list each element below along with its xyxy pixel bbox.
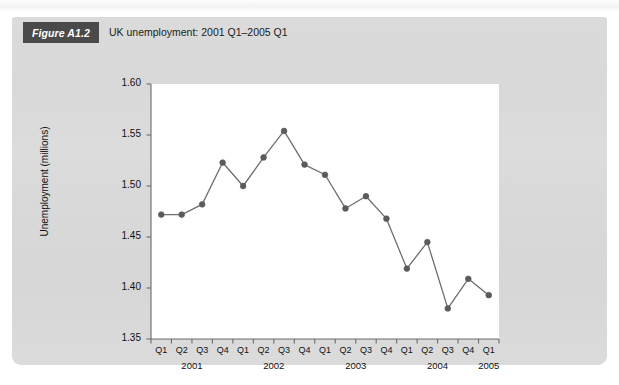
series-data-point	[384, 216, 390, 222]
series-data-point	[404, 266, 410, 272]
scan-artifact-top	[0, 0, 619, 12]
series-data-point	[424, 239, 430, 245]
series-data-point	[486, 292, 492, 298]
series-data-point	[261, 155, 267, 161]
series-data-point	[302, 162, 308, 168]
series-data-point	[363, 193, 369, 199]
series-data-point	[465, 276, 471, 282]
series-data-point	[343, 206, 349, 212]
figure-header: Figure A1.2 UK unemployment: 2001 Q1–200…	[12, 17, 607, 48]
chart-area: Unemployment (millions) 1.601.551.501.45…	[12, 48, 607, 365]
figure-number-badge: Figure A1.2	[23, 22, 99, 43]
series-data-point	[281, 128, 287, 134]
series-data-point	[220, 160, 226, 166]
series-data-point	[158, 212, 164, 218]
figure-title: UK unemployment: 2001 Q1–2005 Q1	[109, 23, 288, 42]
line-chart-svg	[12, 48, 607, 365]
series-data-point	[240, 183, 246, 189]
series-data-point	[179, 212, 185, 218]
figure-panel: Figure A1.2 UK unemployment: 2001 Q1–200…	[12, 17, 607, 365]
series-line	[161, 131, 489, 308]
series-data-point	[322, 172, 328, 178]
series-data-point	[199, 201, 205, 207]
chart-axes	[151, 84, 499, 339]
series-data-point	[445, 306, 451, 312]
